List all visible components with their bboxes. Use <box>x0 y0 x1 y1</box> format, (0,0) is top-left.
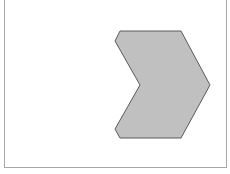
diagram-canvas <box>0 0 230 174</box>
chevron-shape[interactable] <box>115 31 210 138</box>
